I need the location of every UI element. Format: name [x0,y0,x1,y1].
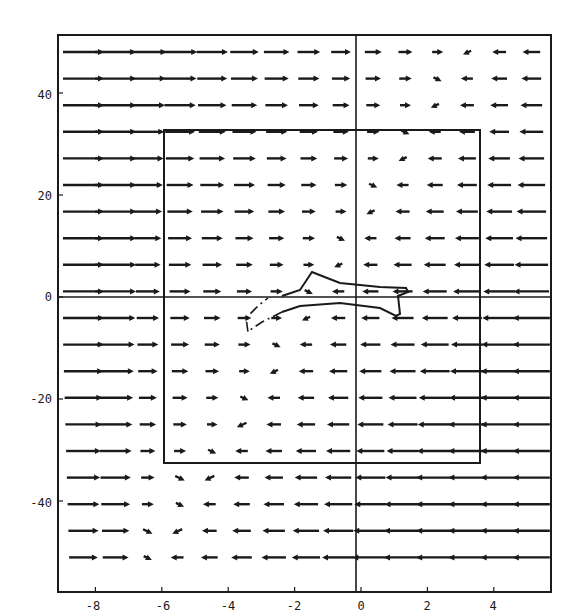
vector-arrow [451,342,483,348]
vector-arrow [268,182,286,188]
vector-arrow [489,129,509,135]
vector-arrow [267,155,287,161]
vector-arrow [168,235,192,241]
vector-arrow [481,342,517,348]
vector-arrow [203,501,216,507]
vector-arrow [336,234,347,243]
y-tick-label: 40 [38,88,52,102]
vector-arrow [268,367,279,376]
vector-arrow [332,288,344,294]
vector-arrow [173,421,187,427]
vector-arrow [366,102,380,108]
vector-arrow [353,528,387,534]
vector-arrow [96,315,135,321]
vector-arrow [201,209,224,215]
vector-arrow [265,448,282,454]
y-tick-label: -40 [30,496,52,510]
vector-arrow [361,315,379,321]
vector-arrow [101,501,130,507]
vector-arrow [334,155,348,161]
vector-arrow [268,209,285,215]
vector-arrow [95,235,136,241]
vector-arrow [516,209,546,215]
vector-arrow [458,155,476,161]
vector-arrow [462,48,473,57]
vector-arrow [266,421,281,427]
vector-arrow [239,368,250,374]
vector-arrow [330,342,346,348]
vector-arrow [269,235,284,241]
vector-arrow [388,421,418,427]
vector-arrow [293,528,319,534]
vector-arrow [205,342,220,348]
vector-arrow [95,182,136,188]
vector-arrow [358,395,382,401]
vector-arrow [513,342,550,348]
vector-arrow [513,475,550,481]
vector-arrow [100,448,132,454]
vector-arrow [200,182,224,188]
vector-arrow [166,155,194,161]
vector-arrow [298,76,319,82]
vector-arrow [206,395,218,401]
vector-arrow [417,448,453,454]
vector-arrow [396,182,408,188]
vector-arrow [513,368,550,374]
vector-arrow [292,554,320,560]
vector-arrow [200,155,225,161]
vector-arrow [169,262,191,268]
trajectory-dashed [246,298,282,332]
vector-arrow [205,368,219,374]
vector-arrow [95,288,136,294]
vector-arrow [300,342,312,348]
vector-arrow [141,475,154,481]
vector-arrow [513,395,550,401]
vector-arrow [518,155,544,161]
vector-arrow [455,235,479,241]
vector-arrow [331,315,345,321]
vector-arrow [481,475,518,481]
vector-arrow [516,235,548,241]
x-tick-label: -8 [86,599,100,613]
vector-arrow [238,342,250,348]
vector-arrow [420,368,450,374]
vector-arrow [492,49,506,55]
vector-arrow [333,102,350,108]
vector-arrow [271,341,282,350]
vector-arrow [513,528,550,534]
y-tick-label: 20 [38,189,52,203]
vector-arrow [425,235,445,241]
vector-arrow [237,288,252,294]
vector-arrow [368,155,379,161]
vector-arrow [513,315,550,321]
vector-arrow [453,288,481,294]
vector-arrow [175,500,186,509]
trajectory-curve [246,272,408,332]
vector-arrow [421,342,449,348]
vector-arrow [235,235,253,241]
vector-arrow [262,528,284,534]
vector-arrow [65,421,101,427]
vector-arrow [299,102,319,108]
vector-arrow [400,102,411,108]
vector-arrow [519,129,543,135]
vector-arrow [491,76,507,82]
vector-arrow [513,421,550,427]
vector-arrow [95,209,136,215]
vector-arrow [129,49,166,55]
vector-arrow [422,315,448,321]
vector-arrow [386,475,420,481]
vector-arrow [98,395,133,401]
vector-arrow [135,262,160,268]
vector-arrow [163,49,197,55]
vector-arrow [230,49,259,55]
vector-arrow [461,76,473,82]
vector-arrow [303,235,315,241]
vector-arrow [164,102,195,108]
vector-arrow [231,76,258,82]
vector-arrow [142,526,154,536]
vector-arrow [207,421,218,427]
vector-arrow [481,421,518,427]
vector-arrow [239,394,250,403]
vector-arrow [429,101,440,110]
